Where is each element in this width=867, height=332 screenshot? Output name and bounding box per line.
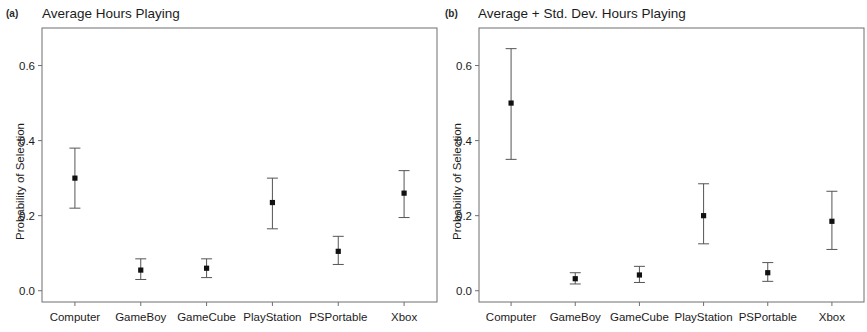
x-tick-label: Xbox bbox=[819, 311, 845, 323]
x-tick-label: PSPortable bbox=[309, 311, 367, 323]
error-bar-playstation bbox=[698, 184, 709, 244]
x-tick-label: GameCube bbox=[177, 311, 236, 323]
figure-container: (a) Average Hours Playing Probability of… bbox=[0, 0, 867, 332]
y-tick-label: 0.6 bbox=[456, 60, 472, 72]
y-tick-label: 0.2 bbox=[456, 210, 472, 222]
x-tick-label: PlayStation bbox=[243, 311, 301, 323]
error-bar-psportable bbox=[762, 263, 773, 282]
y-tick-label: 0.4 bbox=[456, 135, 473, 147]
x-tick-label: Xbox bbox=[391, 311, 417, 323]
y-tick-label: 0.0 bbox=[19, 285, 35, 297]
panel-b-plot: 0.00.20.40.6ComputerGameBoyGameCubePlayS… bbox=[440, 0, 867, 332]
x-tick-label: PlayStation bbox=[674, 311, 732, 323]
error-bar-psportable bbox=[333, 236, 344, 264]
y-tick-label: 0.6 bbox=[19, 60, 35, 72]
error-bar-gameboy bbox=[135, 259, 146, 280]
panel-a-plot: 0.00.20.40.6ComputerGameBoyGameCubePlayS… bbox=[0, 0, 440, 332]
error-bar-playstation bbox=[267, 178, 278, 229]
error-bar-computer bbox=[69, 148, 80, 208]
x-tick-label: PSPortable bbox=[739, 311, 797, 323]
panel-b: (b) Average + Std. Dev. Hours Playing Pr… bbox=[440, 0, 867, 332]
error-bar-gamecube bbox=[634, 266, 645, 282]
x-tick-label: GameCube bbox=[610, 311, 669, 323]
error-bar-computer bbox=[506, 49, 517, 160]
error-bar-xbox bbox=[826, 191, 837, 249]
y-tick-label: 0.0 bbox=[456, 285, 472, 297]
error-bar-gameboy bbox=[570, 273, 581, 284]
panel-a: (a) Average Hours Playing Probability of… bbox=[0, 0, 440, 332]
error-bar-xbox bbox=[399, 171, 410, 218]
y-tick-label: 0.4 bbox=[19, 135, 36, 147]
x-tick-label: GameBoy bbox=[115, 311, 166, 323]
x-tick-label: Computer bbox=[50, 311, 101, 323]
x-tick-label: Computer bbox=[486, 311, 537, 323]
error-bar-gamecube bbox=[201, 259, 212, 278]
y-tick-label: 0.2 bbox=[19, 210, 35, 222]
x-tick-label: GameBoy bbox=[550, 311, 601, 323]
